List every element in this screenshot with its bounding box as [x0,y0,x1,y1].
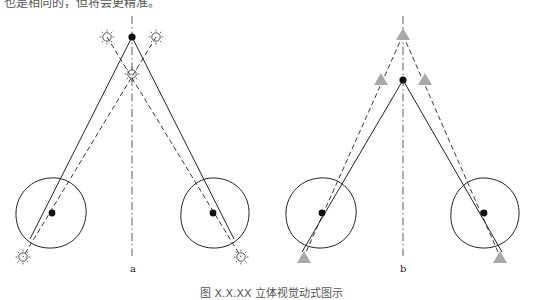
target-dot [399,76,406,83]
figure-caption: 图 X.X.XX 立体视觉动式图示 [200,284,343,300]
sight-line-right [132,37,234,239]
left-pupil-dot [319,210,326,217]
panel-a: a [16,16,250,274]
triangle-icon [396,28,410,40]
dashed-line-right [107,37,241,257]
right-pupil-dot [210,210,217,217]
left-pupil-dot [49,210,56,217]
right-pupil-dot [481,210,488,217]
panel-label-b: b [400,263,406,274]
triangle-icon [374,73,388,85]
dashed-line-left [306,35,403,252]
triangle-icon [297,251,311,263]
panel-b: b [286,16,519,274]
panel-label-a: a [130,263,136,274]
triangle-icon [493,251,507,263]
target-dot [128,33,135,40]
sight-line-left [30,37,132,239]
